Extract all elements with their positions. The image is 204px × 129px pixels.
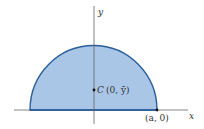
endpoint-marker xyxy=(156,109,159,112)
y-axis-label: y xyxy=(97,7,104,17)
centroid-letter: C xyxy=(97,85,104,95)
semicircle-diagram: y x C (0, ȳ) (a, 0) xyxy=(0,0,204,129)
endpoint-label: (a, 0) xyxy=(145,113,169,123)
centroid-point xyxy=(93,89,96,92)
semicircle-region xyxy=(30,45,157,110)
x-axis-label: x xyxy=(189,111,194,121)
centroid-coords: (0, ȳ) xyxy=(106,85,130,95)
